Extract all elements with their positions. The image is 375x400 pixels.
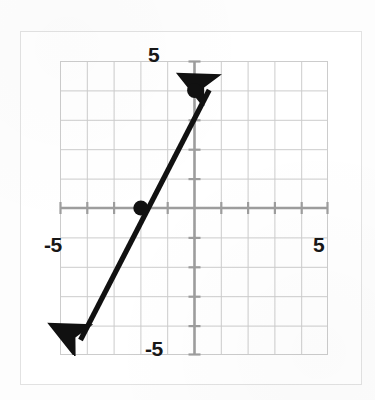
x-axis-right-label: 5: [313, 234, 324, 255]
y-axis-bottom-label: -5: [145, 338, 163, 359]
plot-area: [60, 61, 328, 355]
x-axis-left-label: -5: [44, 234, 62, 255]
line-segment: [81, 90, 210, 340]
y-axis-top-label: 5: [148, 44, 159, 65]
point-x-intercept: [133, 200, 148, 215]
graph-page: 5 -5 -5 5: [0, 0, 375, 400]
plotted-line: [60, 61, 328, 355]
point-y-intercept: [187, 83, 202, 98]
